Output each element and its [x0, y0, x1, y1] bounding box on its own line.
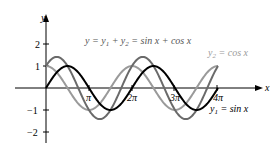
y-axis-label: y — [40, 12, 46, 23]
x-tick-label-pi: π — [86, 92, 92, 103]
y-tick-label-m2: −2 — [27, 127, 38, 138]
x-axis-arrow-icon — [255, 85, 263, 91]
y-tick-label-2: 2 — [35, 39, 40, 50]
sum-annotation: y = y1 + y2 = sin x + cos x — [84, 35, 192, 48]
sin-annotation: y1 = sin x — [209, 103, 249, 116]
x-tick-label-4pi: 4π — [213, 92, 224, 103]
x-axis-label: x — [264, 82, 270, 93]
y-tick-label-1: 1 — [35, 61, 40, 72]
cos-annotation: y2 = cos x — [207, 47, 249, 60]
chart: y x 2 1 −1 −2 π 2π 3π 4π y = y1 + y2 = s… — [0, 0, 275, 149]
x-tick-label-3pi: 3π — [169, 92, 181, 103]
x-tick-label-2pi: 2π — [127, 92, 138, 103]
y-tick-label-m1: −1 — [27, 105, 38, 116]
